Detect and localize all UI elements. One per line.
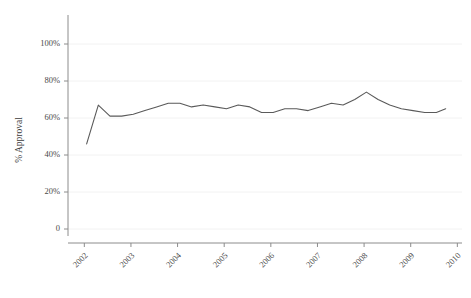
y-axis-title: % Approval	[14, 117, 24, 163]
y-tick-label: 60%	[44, 112, 60, 122]
approval-line-chart: 020%40%60%80%100% 2002200320042005200620…	[0, 0, 471, 298]
y-tick-label: 0	[56, 223, 60, 233]
y-tick-label: 20%	[44, 186, 60, 196]
chart-background	[0, 0, 471, 298]
y-tick-label: 80%	[44, 75, 60, 85]
y-tick-label: 40%	[44, 149, 60, 159]
y-tick-label: 100%	[40, 38, 60, 48]
chart-container: 020%40%60%80%100% 2002200320042005200620…	[0, 0, 471, 298]
